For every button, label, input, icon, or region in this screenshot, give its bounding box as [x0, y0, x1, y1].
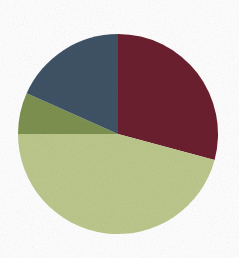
pie-slices-group — [18, 34, 218, 234]
pie-chart-figure — [0, 0, 239, 258]
pie-chart-svg — [0, 0, 239, 258]
